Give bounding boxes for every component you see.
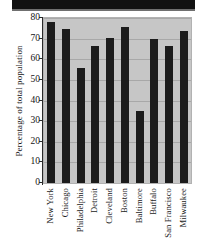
x-axis-tick-label-text: Baltimore — [134, 188, 144, 223]
page-header-band-shadow — [12, 9, 195, 11]
chart-figure: Percentage of total population 010203040… — [0, 0, 205, 249]
bar — [150, 39, 158, 183]
bar — [47, 22, 55, 183]
plot-area — [43, 17, 192, 184]
x-axis-tick-label-text: Milwaukee — [178, 188, 188, 228]
y-axis-tick-label: 30 — [16, 115, 40, 125]
x-axis-tick-label: Detroit — [87, 188, 101, 248]
x-axis-tick-label-text: Cleveland — [104, 188, 114, 224]
bar — [62, 29, 70, 183]
bar — [91, 46, 99, 183]
bar — [180, 31, 188, 183]
x-axis-tick-label: San Francisco — [161, 188, 175, 248]
y-axis-tick-label: 60 — [16, 53, 40, 63]
x-axis-tick-label: Philadelphia — [73, 188, 87, 248]
x-axis-tick-label-text: Detroit — [89, 188, 99, 213]
x-axis-tick-label: Baltimore — [132, 188, 146, 248]
x-axis-tick-label: Cleveland — [102, 188, 116, 248]
y-axis-tick-label: 20 — [16, 136, 40, 146]
x-axis-tick-label: Boston — [117, 188, 131, 248]
bar — [77, 68, 85, 184]
bar — [136, 111, 144, 183]
gridline — [44, 18, 191, 19]
x-axis-tick-label-text: New York — [45, 188, 55, 224]
x-axis-tick-label: New York — [43, 188, 57, 248]
y-axis-tick-label: 50 — [16, 74, 40, 84]
bar — [165, 46, 173, 183]
x-axis-tick-label-text: San Francisco — [163, 188, 173, 238]
y-axis-tick-label: 70 — [16, 33, 40, 43]
x-axis-tick-label: Chicago — [58, 188, 72, 248]
x-axis-tick-label-text: Buffalo — [148, 188, 158, 215]
x-axis-tick-label-text: Philadelphia — [75, 188, 85, 232]
y-axis-tick-label: 0 — [16, 177, 40, 187]
x-axis-tick-label-text: Boston — [119, 188, 129, 213]
y-axis-tick-label: 80 — [16, 12, 40, 22]
bar — [106, 38, 114, 183]
y-axis-tick-label: 40 — [16, 95, 40, 105]
x-axis-tick-label: Buffalo — [146, 188, 160, 248]
x-axis-tick-label-text: Chicago — [60, 188, 70, 217]
y-axis-tick-label: 10 — [16, 156, 40, 166]
x-axis-tick-label: Milwaukee — [176, 188, 190, 248]
page-header-band — [12, 0, 195, 9]
bar — [121, 27, 129, 183]
